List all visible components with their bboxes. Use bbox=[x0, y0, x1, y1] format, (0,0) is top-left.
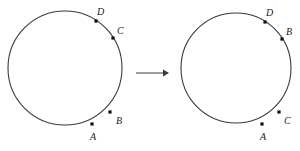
transformation-arrow-head bbox=[163, 70, 169, 77]
point-dot-right-circle-D bbox=[263, 20, 266, 23]
point-label-left-circle-D: D bbox=[97, 7, 104, 17]
point-label-left-circle-B: B bbox=[116, 116, 122, 126]
right-circle-outline bbox=[181, 13, 291, 123]
point-label-right-circle-A: A bbox=[260, 132, 266, 142]
point-dot-right-circle-C bbox=[277, 110, 280, 113]
diagram-canvas bbox=[0, 0, 300, 151]
point-dot-left-circle-D bbox=[94, 19, 97, 22]
geometry-figure: DCBADBCA bbox=[0, 0, 300, 151]
left-circle-outline bbox=[8, 11, 122, 125]
point-dot-left-circle-A bbox=[90, 122, 93, 125]
point-label-right-circle-B: B bbox=[286, 27, 292, 37]
point-dot-left-circle-C bbox=[111, 36, 114, 39]
point-dot-left-circle-B bbox=[108, 110, 111, 113]
point-dot-right-circle-A bbox=[260, 122, 263, 125]
point-dot-right-circle-B bbox=[280, 37, 283, 40]
point-label-right-circle-C: C bbox=[284, 116, 291, 126]
point-label-left-circle-A: A bbox=[90, 132, 96, 142]
point-label-left-circle-C: C bbox=[117, 26, 124, 36]
point-label-right-circle-D: D bbox=[266, 8, 273, 18]
